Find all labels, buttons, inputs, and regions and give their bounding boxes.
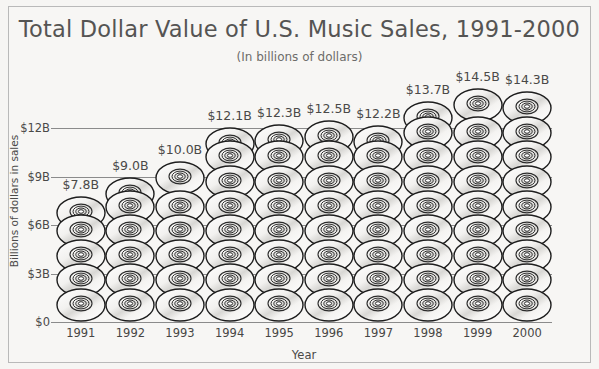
cd-icon	[453, 288, 503, 322]
data-label-1992: $9.0B	[98, 158, 162, 173]
cd-icon	[56, 288, 106, 322]
x-tick-label-1994: 1994	[205, 326, 255, 340]
x-tick-label-1996: 1996	[304, 326, 354, 340]
data-label-1993: $10.0B	[148, 142, 212, 157]
y-tick-label-3: $9B	[2, 170, 50, 184]
data-label-2000: $14.3B	[495, 72, 559, 87]
cd-icon	[353, 288, 403, 322]
chart-title: Total Dollar Value of U.S. Music Sales, …	[0, 16, 599, 42]
data-label-1998: $13.7B	[396, 82, 460, 97]
y-axis-label: Billions of dollars in sales	[8, 135, 20, 267]
cd-icon	[105, 288, 155, 322]
cd-icon	[502, 288, 552, 322]
x-tick-label-1999: 1999	[453, 326, 503, 340]
x-axis-label: Year	[56, 348, 552, 362]
x-tick-label-1991: 1991	[56, 326, 106, 340]
y-tick-label-0: $0	[2, 315, 50, 329]
x-tick-label-1997: 1997	[353, 326, 403, 340]
bar-column-1991: $7.8B	[56, 80, 106, 322]
plot-area: Billions of dollars in sales Year $0$3B$…	[56, 80, 552, 322]
y-tick-label-4: $12B	[2, 121, 50, 135]
y-tick-mark	[51, 322, 57, 323]
data-label-1997: $12.2B	[346, 106, 410, 121]
cd-icon	[155, 288, 205, 322]
bar-column-2000: $14.3B	[502, 80, 552, 322]
cd-icon	[205, 288, 255, 322]
bar-column-1992: $9.0B	[105, 80, 155, 322]
gridline-0	[56, 322, 552, 323]
y-tick-label-2: $6B	[2, 218, 50, 232]
x-tick-label-2000: 2000	[502, 326, 552, 340]
chart-container: Total Dollar Value of U.S. Music Sales, …	[0, 0, 599, 369]
x-tick-label-1993: 1993	[155, 326, 205, 340]
x-tick-label-1995: 1995	[254, 326, 304, 340]
bar-column-1999: $14.5B	[453, 80, 503, 322]
x-tick-label-1998: 1998	[403, 326, 453, 340]
bar-column-1997: $12.2B	[353, 80, 403, 322]
y-tick-label-1: $3B	[2, 267, 50, 281]
bar-column-1998: $13.7B	[403, 80, 453, 322]
cd-icon	[403, 288, 453, 322]
chart-subtitle: (In billions of dollars)	[0, 50, 599, 64]
data-label-1991: $7.8B	[49, 177, 113, 192]
cd-icon	[254, 288, 304, 322]
x-tick-label-1992: 1992	[105, 326, 155, 340]
cd-icon	[304, 288, 354, 322]
